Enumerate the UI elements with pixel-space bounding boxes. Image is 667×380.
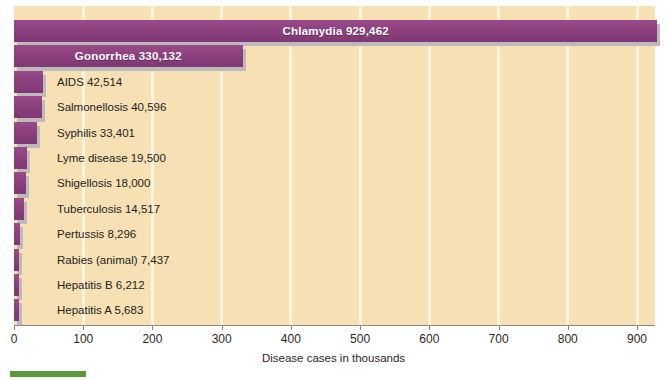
bar-row: Rabies (animal) 7,437 xyxy=(14,249,655,271)
bar-hepatitis-b[interactable] xyxy=(14,274,19,296)
bar-row: AIDS 42,514 xyxy=(14,71,655,93)
x-tick-label: 900 xyxy=(617,332,657,346)
bar-row: Gonorrhea 330,132 xyxy=(14,45,655,67)
x-tick xyxy=(637,325,638,330)
x-tick xyxy=(83,325,84,330)
x-tick xyxy=(429,325,430,330)
bar-pertussis[interactable] xyxy=(14,223,20,245)
bar-value-label-outside: Lyme disease 19,500 xyxy=(57,147,166,169)
bar-row: Lyme disease 19,500 xyxy=(14,147,655,169)
x-tick xyxy=(222,325,223,330)
bar-row: Chlamydia 929,462 xyxy=(14,20,655,42)
x-tick-label: 400 xyxy=(271,332,311,346)
x-tick xyxy=(499,325,500,330)
bar-value-label-outside: Syphilis 33,401 xyxy=(57,122,135,144)
bar-value-label-outside: Hepatitis A 5,683 xyxy=(57,299,143,321)
x-tick-label: 300 xyxy=(202,332,242,346)
x-tick-label: 700 xyxy=(479,332,519,346)
bar-value-label-outside: Tuberculosis 14,517 xyxy=(57,198,160,220)
x-tick-label: 100 xyxy=(63,332,103,346)
bar-row: Salmonellosis 40,596 xyxy=(14,96,655,118)
x-tick xyxy=(568,325,569,330)
bar-value-label-outside: Shigellosis 18,000 xyxy=(57,172,150,194)
bar-value-label-outside: AIDS 42,514 xyxy=(57,71,122,93)
x-tick-label: 0 xyxy=(0,332,34,346)
bar-hepatitis-a[interactable] xyxy=(14,299,19,321)
bar-value-label-inside: Chlamydia 929,462 xyxy=(14,20,657,42)
bar-shigellosis[interactable] xyxy=(14,172,26,194)
bar-syphilis[interactable] xyxy=(14,122,37,144)
x-tick xyxy=(14,325,15,330)
bar-row: Shigellosis 18,000 xyxy=(14,172,655,194)
bar-value-label-outside: Salmonellosis 40,596 xyxy=(57,96,166,118)
x-axis-line xyxy=(14,325,655,326)
bar-value-label-outside: Hepatitis B 6,212 xyxy=(57,274,145,296)
bar-tuberculosis[interactable] xyxy=(14,198,24,220)
bar-value-label-outside: Rabies (animal) 7,437 xyxy=(57,249,170,271)
bar-row: Pertussis 8,296 xyxy=(14,223,655,245)
bar-value-label-outside: Pertussis 8,296 xyxy=(57,223,136,245)
bar-salmonellosis[interactable] xyxy=(14,96,42,118)
x-tick xyxy=(360,325,361,330)
bar-row: Hepatitis A 5,683 xyxy=(14,299,655,321)
x-tick xyxy=(291,325,292,330)
bar-lyme-disease[interactable] xyxy=(14,147,27,169)
x-tick-label: 200 xyxy=(132,332,172,346)
bar-row: Syphilis 33,401 xyxy=(14,122,655,144)
x-tick-label: 500 xyxy=(340,332,380,346)
bar-aids[interactable] xyxy=(14,71,43,93)
bar-row: Tuberculosis 14,517 xyxy=(14,198,655,220)
bar-rabies-animal[interactable] xyxy=(14,249,19,271)
plot-area: Chlamydia 929,462Gonorrhea 330,132AIDS 4… xyxy=(14,6,655,325)
x-tick-label: 600 xyxy=(409,332,449,346)
x-tick-label: 800 xyxy=(548,332,588,346)
x-axis-title: Disease cases in thousands xyxy=(0,352,667,364)
bar-row: Hepatitis B 6,212 xyxy=(14,274,655,296)
bar-value-label-inside: Gonorrhea 330,132 xyxy=(14,45,243,67)
x-tick xyxy=(152,325,153,330)
caption-marker-bar xyxy=(10,371,86,377)
disease-cases-bar-chart: Chlamydia 929,462Gonorrhea 330,132AIDS 4… xyxy=(0,0,667,380)
